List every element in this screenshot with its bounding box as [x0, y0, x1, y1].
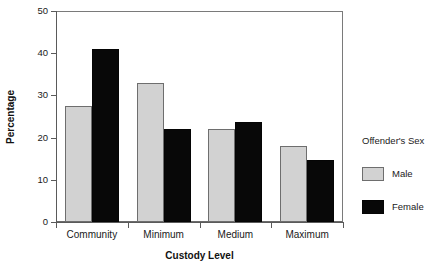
y-axis-tick-label: 40: [8, 48, 48, 58]
bar-maximum-female: [307, 160, 334, 222]
x-axis-tick: [200, 223, 201, 228]
x-axis-title: Custody Level: [56, 251, 343, 261]
chart-container: 01020304050 CommunityMinimumMediumMaximu…: [0, 0, 437, 270]
y-axis-tick: [51, 180, 57, 181]
legend-item-female: Female: [362, 200, 437, 214]
x-axis-tick-label: Minimum: [143, 230, 184, 240]
legend-items: MaleFemale: [362, 167, 437, 214]
x-axis-tick: [271, 223, 272, 228]
bar-minimum-male: [137, 83, 164, 222]
y-axis-tick-label: 10: [8, 175, 48, 185]
bar-community-male: [65, 106, 92, 222]
x-axis-tick: [343, 223, 344, 228]
female-swatch: [362, 200, 384, 214]
legend-item-male: Male: [362, 167, 437, 181]
y-axis-tick-label: 50: [8, 6, 48, 16]
y-axis-title: Percentage: [6, 67, 16, 167]
legend-title: Offender's Sex: [362, 136, 437, 146]
legend-item-label: Female: [392, 202, 424, 212]
x-axis-tick-label: Community: [67, 230, 118, 240]
bar-minimum-female: [164, 129, 191, 222]
y-axis-tick-label: 0: [8, 217, 48, 227]
bar-community-female: [92, 49, 119, 222]
legend: Offender's Sex MaleFemale: [362, 136, 437, 233]
y-axis-tick: [51, 11, 57, 12]
bar-medium-male: [208, 129, 235, 222]
y-axis-line: [56, 11, 57, 223]
y-axis-tick: [51, 138, 57, 139]
bar-maximum-male: [280, 146, 307, 222]
bar-medium-female: [235, 122, 262, 222]
male-swatch: [362, 167, 384, 181]
x-axis-tick-label: Maximum: [285, 230, 328, 240]
y-axis-tick: [51, 53, 57, 54]
y-axis-tick: [51, 95, 57, 96]
legend-item-label: Male: [392, 169, 413, 179]
x-axis-tick: [128, 223, 129, 228]
x-axis-tick-label: Medium: [218, 230, 254, 240]
x-axis-tick: [56, 223, 57, 228]
